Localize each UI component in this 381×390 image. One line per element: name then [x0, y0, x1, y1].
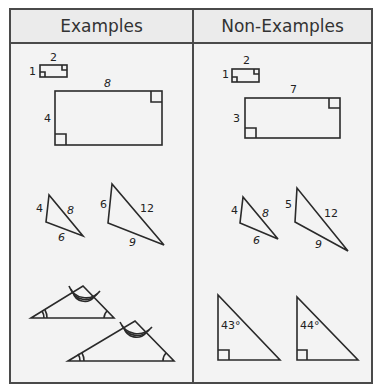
- non-example-small-rectangle: [232, 69, 259, 82]
- label-nex-tri-large-b: 12: [324, 207, 338, 220]
- example-similar-triangle-1: [31, 286, 114, 318]
- example-small-triangle: [46, 195, 83, 236]
- label-ex-rect-small-top: 2: [50, 51, 57, 64]
- label-nex-rect-small-side: 1: [222, 68, 229, 81]
- label-nex-tri-small-b: 8: [262, 207, 269, 220]
- label-ex-tri-small-a: 4: [36, 202, 43, 215]
- label-ex-tri-large-b: 12: [140, 202, 154, 215]
- label-ex-rect-large-side: 4: [44, 112, 51, 125]
- label-ex-tri-large-c: 9: [129, 236, 136, 249]
- non-example-large-rectangle: [245, 98, 340, 138]
- label-ex-rect-small-side: 1: [29, 65, 36, 78]
- label-nex-tri-small-c: 6: [253, 234, 260, 247]
- label-nex-right-tri-2-angle: 44°: [300, 319, 320, 332]
- non-example-small-triangle: [240, 197, 278, 239]
- label-nex-rect-large-side: 3: [233, 112, 240, 125]
- label-ex-tri-large-a: 6: [100, 198, 107, 211]
- label-ex-rect-large-top: 8: [104, 77, 111, 90]
- label-nex-tri-small-a: 4: [231, 204, 238, 217]
- example-small-rectangle: [40, 65, 67, 77]
- label-nex-tri-large-c: 9: [315, 238, 322, 251]
- example-similar-triangle-2: [68, 321, 174, 361]
- label-nex-tri-large-a: 5: [285, 198, 292, 211]
- label-nex-right-tri-1-angle: 43°: [221, 319, 241, 332]
- example-large-rectangle: [55, 91, 162, 145]
- label-nex-rect-small-top: 2: [243, 54, 250, 67]
- label-ex-tri-small-c: 6: [58, 231, 65, 244]
- example-large-triangle: [108, 184, 164, 245]
- label-ex-tri-small-b: 8: [67, 204, 74, 217]
- label-nex-rect-large-top: 7: [290, 83, 297, 96]
- figures-canvas: 2 1 8 4 2 1 7 3 4 8 6 6 12 9 4 8 6 5 12 …: [0, 0, 381, 390]
